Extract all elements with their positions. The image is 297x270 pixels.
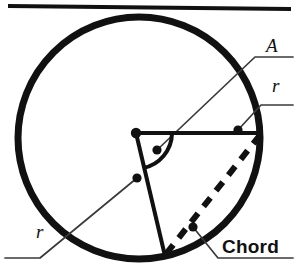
leader-radius-right: [238, 105, 293, 130]
leader-dot-chord: [188, 222, 197, 231]
label-chord: Chord: [222, 237, 279, 256]
leader-dot-radius-right: [233, 125, 242, 134]
top-horizontal-rule: [8, 6, 291, 9]
diagram-canvas: A r r Chord: [0, 0, 297, 270]
leader-angle-A: [157, 57, 293, 150]
label-radius-left: r: [36, 222, 43, 241]
circle-diagram-svg: [0, 0, 297, 270]
leader-dot-radius-left: [132, 173, 141, 182]
circle-center-dot: [131, 128, 141, 138]
label-angle-A: A: [266, 36, 278, 55]
leader-dot-angle: [152, 145, 161, 154]
leader-radius-left: [5, 178, 137, 258]
label-radius-right: r: [272, 76, 279, 95]
leader-endpoint-dots: [132, 125, 242, 231]
